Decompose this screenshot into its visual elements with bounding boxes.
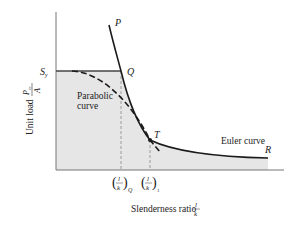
shaded-region xyxy=(56,71,268,170)
svg-text:Slenderness ratio: Slenderness ratio xyxy=(131,204,196,214)
svg-text:k: k xyxy=(146,184,150,192)
svg-text:A: A xyxy=(33,88,42,94)
svg-text:Unit load: Unit load xyxy=(25,99,35,135)
parabolic-curve-label: Parabolic xyxy=(77,91,113,101)
buckling-diagram: Sy P Q T R Parabolic curve Euler curve U… xyxy=(0,0,299,228)
label-q: Q xyxy=(127,66,135,77)
tangent-point-t xyxy=(148,138,152,142)
euler-curve-label: Euler curve xyxy=(221,136,265,146)
label-t: T xyxy=(154,129,161,140)
svg-text:l: l xyxy=(147,175,149,183)
svg-text:l: l xyxy=(118,175,120,183)
tick-label-l-k-q: ( l k ) Q xyxy=(112,175,133,193)
svg-text:Q: Q xyxy=(128,187,133,193)
label-s-y: Sy xyxy=(40,66,48,78)
x-axis-label: Slenderness ratio l k xyxy=(131,201,200,218)
tick-label-l-k-1: ( l k ) 1 xyxy=(141,175,160,193)
label-p: P xyxy=(114,17,121,28)
parabolic-curve-label-2: curve xyxy=(77,101,98,111)
svg-text:cr: cr xyxy=(27,86,32,90)
svg-text:l: l xyxy=(195,201,197,209)
svg-text:1: 1 xyxy=(157,188,160,193)
y-axis-label: Unit load P cr A xyxy=(22,83,42,135)
svg-text:k: k xyxy=(117,184,121,192)
label-r: R xyxy=(264,144,271,155)
svg-text:k: k xyxy=(194,210,198,218)
